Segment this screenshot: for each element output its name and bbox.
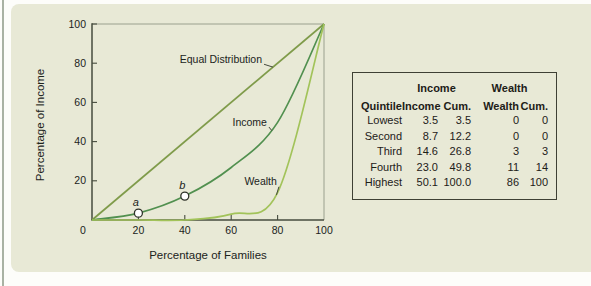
value-cell: 23.0	[402, 160, 438, 176]
value-cell: 3.5	[438, 113, 471, 129]
table-group-header-row: Income Wealth	[353, 78, 556, 99]
value-cell: 12.2	[438, 129, 471, 145]
value-cell: 100.0	[438, 175, 471, 191]
column-header-wealth-cum: Cum.	[519, 99, 556, 113]
value-cell: 0	[471, 129, 519, 145]
quintile-cell: Highest	[353, 175, 402, 191]
value-cell: 14	[519, 160, 556, 176]
value-cell: 3	[519, 144, 556, 160]
value-cell: 14.6	[402, 144, 438, 160]
value-cell: 0	[471, 113, 519, 129]
y-axis-title: Percentage of Income	[34, 69, 46, 182]
group-header-income: Income	[402, 78, 471, 99]
x-tick-label: 100	[315, 224, 333, 236]
curve-label: Income	[232, 116, 267, 128]
value-cell: 8.7	[402, 129, 438, 145]
value-cell: 0	[519, 129, 556, 145]
point-b	[181, 192, 189, 200]
value-cell: 50.1	[402, 175, 438, 191]
y-tick-label: 40	[74, 135, 86, 147]
point-label-b: b	[179, 179, 185, 191]
column-header-income: Income	[402, 99, 438, 113]
x-tick-label: 40	[179, 224, 191, 236]
group-header-spacer	[353, 78, 402, 99]
curve-label: Wealth	[244, 175, 277, 187]
value-cell: 3	[471, 144, 519, 160]
curve-label: Equal Distribution	[180, 53, 262, 65]
y-tick-label: 60	[74, 96, 86, 108]
x-axis-title: Percentage of Families	[149, 249, 267, 261]
x-tick-label: 80	[272, 224, 284, 236]
column-header-quintile: Quintile	[353, 99, 402, 113]
value-cell: 86	[471, 175, 519, 191]
quintile-cell: Second	[353, 129, 402, 145]
value-cell: 100	[519, 175, 556, 191]
y-tick-label: 100	[68, 18, 86, 30]
table-row: Fourth23.049.81114	[353, 160, 556, 176]
value-cell: 11	[471, 160, 519, 176]
column-header-wealth: Wealth	[471, 99, 519, 113]
point-a	[134, 209, 142, 217]
quintile-cell: Lowest	[353, 113, 402, 129]
value-cell: 49.8	[438, 160, 471, 176]
quintile-cell: Third	[353, 144, 402, 160]
table-row: Second8.712.200	[353, 129, 556, 145]
x-tick-label: 60	[225, 224, 237, 236]
table-header-row: Quintile Income Cum. Wealth Cum.	[353, 99, 556, 113]
figure-page: 02040608010020406080100 Equal Distributi…	[0, 0, 591, 286]
value-cell: 3.5	[402, 113, 438, 129]
quintile-cell: Fourth	[353, 160, 402, 176]
leader-line	[264, 64, 273, 67]
distribution-table: Income Wealth Quintile Income Cum. Wealt…	[352, 72, 557, 200]
value-cell: 26.8	[438, 144, 471, 160]
column-header-income-cum: Cum.	[438, 99, 471, 113]
leader-line	[269, 127, 272, 131]
table-row: Third14.626.833	[353, 144, 556, 160]
x-tick-label: 20	[133, 224, 145, 236]
table-row: Highest50.1100.086100	[353, 175, 556, 191]
y-tick-label: 80	[74, 57, 86, 69]
group-header-wealth: Wealth	[471, 78, 556, 99]
value-cell: 0	[519, 113, 556, 129]
x-tick-label: 0	[80, 224, 86, 236]
table-row: Lowest3.53.500	[353, 113, 556, 129]
point-label-a: a	[133, 196, 139, 208]
y-tick-label: 20	[74, 174, 86, 186]
